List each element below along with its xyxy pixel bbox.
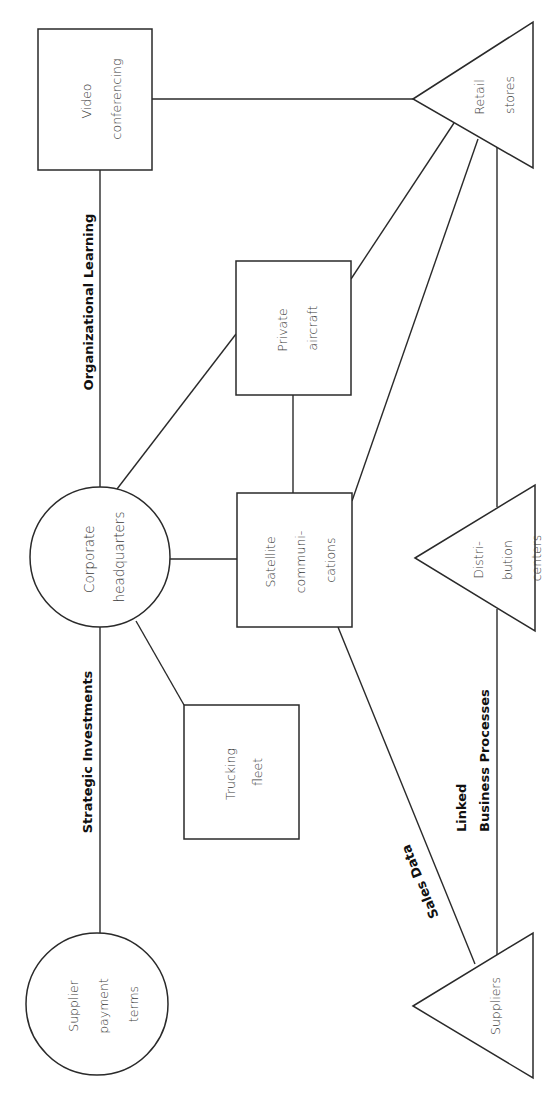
private-aircraft-line1: Private: [275, 308, 290, 352]
satellite-communications-line3: cations: [323, 538, 338, 583]
distribution-centers-line3: centers: [529, 535, 544, 582]
edge-hq-trucking: [136, 621, 184, 705]
satellite-communications-line1: Satellite: [263, 536, 278, 587]
suppliers-line1: Suppliers: [488, 977, 503, 1035]
distribution-centers-line1: Distri-: [471, 541, 486, 579]
suppliers-triangle: [413, 933, 533, 1078]
node-distribution-centers: Distri- bution centers: [415, 485, 544, 631]
node-corporate-headquarters: Corporate headquarters: [30, 487, 170, 627]
node-supplier-payment-terms: Supplier payment terms: [26, 933, 168, 1075]
private-aircraft-box: [236, 261, 351, 395]
label-organizational-learning: Organizational Learning: [81, 214, 96, 391]
satellite-communications-line2: communi-: [293, 531, 308, 594]
corporate-headquarters-line2: headquarters: [111, 512, 127, 603]
node-private-aircraft: Private aircraft: [236, 261, 351, 395]
distribution-centers-line2: bution: [500, 540, 515, 580]
supplier-payment-terms-line2: payment: [96, 978, 111, 1034]
label-linked-line1: Linked: [454, 784, 469, 832]
diagram-canvas: Video conferencing Retail stores Private…: [0, 0, 547, 1108]
trucking-fleet-box: [184, 705, 299, 839]
edge-satellite-retail: [352, 139, 478, 501]
diagram-svg: Video conferencing Retail stores Private…: [0, 0, 547, 1108]
label-linked-business-processes: Linked Business Processes: [454, 689, 492, 832]
label-linked-line2: Business Processes: [477, 689, 492, 832]
edge-hq-aircraft: [117, 334, 236, 489]
trucking-fleet-line2: fleet: [250, 758, 265, 786]
distribution-centers-label: Distri- bution centers: [471, 535, 544, 582]
corporate-headquarters-line1: Corporate: [81, 525, 97, 593]
node-video-conferencing: Video conferencing: [38, 29, 152, 170]
trucking-fleet-line1: Trucking: [223, 748, 238, 800]
node-trucking-fleet: Trucking fleet: [184, 705, 299, 839]
supplier-payment-terms-line1: Supplier: [66, 979, 81, 1031]
suppliers-label: Suppliers: [488, 977, 503, 1035]
video-conferencing-box: [38, 29, 152, 170]
private-aircraft-line2: aircraft: [305, 306, 320, 351]
retail-stores-line1: Retail: [472, 79, 487, 114]
video-conferencing-line2: conferencing: [109, 59, 124, 140]
node-satellite-communications: Satellite communi- cations: [237, 493, 352, 627]
video-conferencing-line1: Video: [79, 83, 94, 118]
label-strategic-investments: Strategic Investments: [80, 670, 95, 833]
node-retail-stores: Retail stores: [413, 22, 533, 168]
edge-aircraft-retail: [351, 123, 454, 279]
label-sales-data: Sales Data: [398, 843, 441, 921]
retail-stores-line2: stores: [502, 76, 517, 114]
supplier-payment-terms-line3: terms: [126, 986, 141, 1022]
node-suppliers: Suppliers: [413, 933, 533, 1078]
corporate-headquarters-circle: [30, 487, 170, 627]
